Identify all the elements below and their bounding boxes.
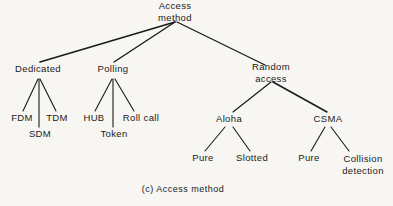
node-slotted: Slotted — [236, 152, 268, 164]
node-roll-call: Roll call — [123, 112, 159, 124]
node-pure: Pure — [192, 152, 213, 164]
node-sdm: SDM — [29, 128, 51, 140]
edge-csma-to-collision-detection — [331, 127, 349, 151]
node-fdm: FDM — [11, 112, 33, 124]
edge-random-access-to-aloha — [233, 82, 271, 112]
access-method-tree-diagram: Access methodDedicatedPollingRandom acce… — [0, 0, 393, 206]
edge-dedicated-to-tdm — [40, 79, 56, 111]
edge-aloha-to-pure — [205, 127, 225, 151]
edge-aloha-to-slotted — [233, 127, 250, 151]
node-polling: Polling — [98, 63, 129, 75]
node-dedicated: Dedicated — [15, 63, 61, 75]
edge-polling-to-hub — [95, 79, 112, 111]
figure-caption: (c) Access method — [142, 184, 225, 194]
node-aloha: Aloha — [216, 113, 242, 125]
node-pure: Pure — [298, 152, 319, 164]
node-collision-detection: Collision detection — [334, 153, 392, 176]
edge-root-to-random-access — [177, 22, 265, 65]
edge-dedicated-to-fdm — [23, 79, 38, 111]
node-root-access-method: Access method — [146, 0, 204, 23]
edge-csma-to-pure — [311, 127, 325, 151]
node-tdm: TDM — [46, 112, 68, 124]
edge-random-access-to-csma — [273, 82, 327, 112]
node-hub: HUB — [83, 112, 104, 124]
node-token: Token — [100, 128, 127, 140]
node-csma: CSMA — [314, 113, 343, 125]
edge-root-to-polling — [114, 22, 175, 62]
edge-root-to-dedicated — [40, 22, 175, 62]
edge-polling-to-roll-call — [115, 79, 134, 111]
node-random-access: Random access — [242, 61, 300, 84]
